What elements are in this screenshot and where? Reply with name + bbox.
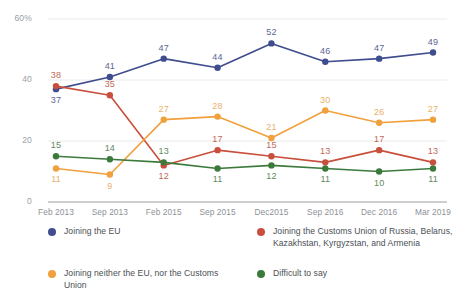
data-point-marker[interactable]: [376, 120, 382, 126]
data-value-label: 12: [158, 171, 168, 181]
chart-legend: Joining the EU Joining the Customs Union…: [0, 222, 457, 303]
line-chart: 0204060% 3741474452464749383512171513171…: [0, 0, 457, 303]
data-value-label: 11: [51, 174, 61, 184]
x-axis-tick-label: Sep 2016: [295, 207, 355, 217]
y-axis-tick-label: 0: [2, 196, 32, 206]
legend-swatch-icon: [48, 270, 56, 278]
data-value-label: 46: [320, 46, 330, 56]
data-point-marker[interactable]: [376, 55, 382, 61]
legend-item-joining-the-eu[interactable]: Joining the EU: [48, 226, 238, 238]
legend-swatch-icon: [48, 228, 56, 236]
data-value-label: 14: [105, 143, 115, 153]
y-axis-tick-label: 40: [2, 74, 32, 84]
plot-area: 0204060% 3741474452464749383512171513171…: [0, 0, 457, 220]
legend-item-neither[interactable]: Joining neither the EU, nor the Customs …: [48, 268, 238, 291]
data-value-label: 52: [266, 27, 276, 37]
data-point-marker[interactable]: [161, 116, 167, 122]
data-value-label: 12: [266, 171, 276, 181]
data-value-label: 38: [51, 70, 61, 80]
data-point-marker[interactable]: [53, 165, 59, 171]
x-axis-tick-label: Feb 2013: [26, 207, 86, 217]
series-line: [56, 86, 433, 165]
data-value-label: 13: [428, 146, 438, 156]
legend-swatch-icon: [257, 228, 265, 236]
data-point-marker[interactable]: [268, 162, 274, 168]
legend-item-label: Joining the EU: [64, 226, 121, 238]
data-point-marker[interactable]: [430, 49, 436, 55]
data-value-label: 17: [212, 134, 222, 144]
data-point-marker[interactable]: [161, 55, 167, 61]
data-value-label: 27: [428, 104, 438, 114]
data-point-marker[interactable]: [430, 165, 436, 171]
data-value-label: 26: [374, 107, 384, 117]
data-point-marker[interactable]: [322, 159, 328, 165]
x-axis-tick-label: Dec2015: [241, 207, 301, 217]
data-value-label: 10: [374, 178, 384, 188]
data-value-label: 9: [107, 181, 112, 191]
legend-swatch-icon: [257, 270, 265, 278]
y-axis-tick-label: 20: [2, 135, 32, 145]
data-value-label: 49: [428, 37, 438, 47]
data-point-marker[interactable]: [214, 65, 220, 71]
data-value-label: 27: [158, 104, 168, 114]
data-value-label: 44: [212, 52, 222, 62]
data-point-marker[interactable]: [161, 159, 167, 165]
data-value-label: 13: [320, 146, 330, 156]
data-point-marker[interactable]: [322, 59, 328, 65]
data-value-label: 21: [266, 122, 276, 132]
data-value-label: 30: [320, 95, 330, 105]
data-value-label: 35: [105, 79, 115, 89]
data-value-label: 11: [213, 174, 223, 184]
data-point-marker[interactable]: [107, 92, 113, 98]
data-point-marker[interactable]: [214, 165, 220, 171]
data-value-label: 47: [158, 43, 168, 53]
legend-item-label: Joining the Customs Union of Russia, Bel…: [273, 226, 457, 249]
data-point-marker[interactable]: [430, 159, 436, 165]
data-value-label: 17: [374, 134, 384, 144]
data-value-label: 13: [158, 146, 168, 156]
data-point-marker[interactable]: [53, 83, 59, 89]
data-value-label: 37: [51, 95, 61, 105]
legend-item-difficult-to-say[interactable]: Difficult to say: [257, 268, 447, 280]
data-point-marker[interactable]: [322, 165, 328, 171]
data-point-marker[interactable]: [107, 156, 113, 162]
data-point-marker[interactable]: [268, 153, 274, 159]
data-point-marker[interactable]: [214, 147, 220, 153]
data-point-marker[interactable]: [214, 113, 220, 119]
data-value-label: 15: [51, 140, 61, 150]
data-value-label: 41: [105, 61, 115, 71]
legend-item-label: Difficult to say: [273, 268, 327, 280]
data-value-label: 11: [428, 174, 438, 184]
x-axis-tick-label: Dec 2016: [349, 207, 409, 217]
data-value-label: 11: [320, 174, 330, 184]
x-axis-tick-label: Mar 2019: [403, 207, 457, 217]
data-point-marker[interactable]: [107, 171, 113, 177]
data-point-marker[interactable]: [430, 116, 436, 122]
legend-item-label: Joining neither the EU, nor the Customs …: [64, 268, 238, 291]
legend-item-customs-union[interactable]: Joining the Customs Union of Russia, Bel…: [257, 226, 457, 249]
x-axis-tick-label: Sep 2013: [80, 207, 140, 217]
data-value-label: 15: [266, 140, 276, 150]
x-axis-tick-label: Feb 2015: [134, 207, 194, 217]
data-point-marker[interactable]: [268, 40, 274, 46]
data-point-marker[interactable]: [376, 168, 382, 174]
data-value-label: 28: [212, 101, 222, 111]
x-axis-tick-label: Sep 2015: [188, 207, 248, 217]
data-value-label: 47: [374, 43, 384, 53]
footer-partial-text: [60, 297, 400, 303]
y-axis-tick-label: 60%: [2, 13, 32, 23]
data-point-marker[interactable]: [376, 147, 382, 153]
data-point-marker[interactable]: [322, 107, 328, 113]
data-point-marker[interactable]: [53, 153, 59, 159]
plot-svg: [0, 0, 457, 220]
